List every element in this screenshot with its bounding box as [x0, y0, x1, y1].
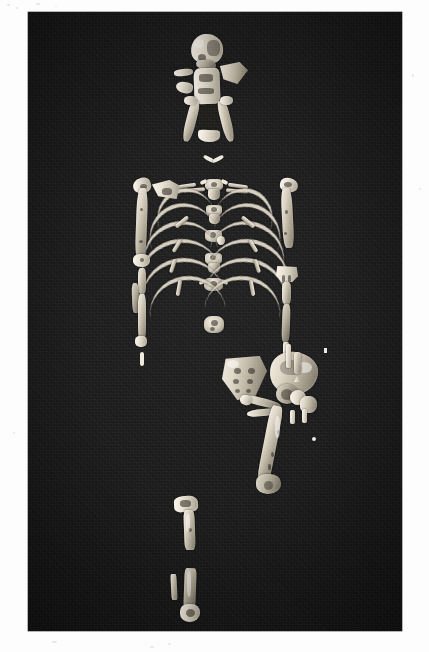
- tiny-fragment: [324, 348, 327, 353]
- mandible-symphysis: [198, 130, 220, 143]
- mandible-condyle-right: [220, 96, 233, 105]
- tibia-highlight: [186, 514, 190, 532]
- sacral-foramen: [233, 379, 239, 384]
- distal-radius-left: [135, 336, 147, 347]
- bone-pit: [140, 208, 143, 211]
- page-canvas: [0, 0, 429, 652]
- sacral-foramen: [235, 389, 240, 393]
- mandible-condyle-left: [184, 96, 197, 105]
- paper-speck: [36, 3, 40, 5]
- temporal-fragment: [220, 62, 248, 84]
- paper-speck: [168, 643, 171, 645]
- trochlear-notch: [288, 275, 291, 282]
- tibia-highlight: [187, 571, 191, 597]
- paper-speck: [7, 4, 10, 6]
- skeleton-photograph: [28, 12, 402, 631]
- radius-left: [138, 268, 146, 294]
- fibula-fragment: [170, 574, 177, 600]
- epiphysis-shadow: [186, 609, 195, 617]
- sacral-foramen: [247, 379, 253, 384]
- bone-pit: [285, 210, 288, 214]
- radius-shaft-right: [281, 304, 290, 342]
- sacral-foramen: [246, 389, 251, 393]
- paper-speck: [412, 74, 414, 77]
- paper-speck: [52, 641, 57, 643]
- zygomatic-fragment-left-lower: [175, 81, 194, 95]
- metacarpal-fragment-left: [140, 352, 144, 366]
- clavicle-right: [212, 154, 224, 163]
- tibial-plateau-shadow: [180, 500, 191, 507]
- bone-crack: [268, 464, 271, 470]
- bone-pit: [139, 240, 143, 243]
- metacarpal-fragment: [294, 352, 301, 374]
- femur-shaft: [256, 405, 284, 484]
- femur-highlight: [275, 416, 280, 438]
- bone-pit: [284, 232, 287, 235]
- paper-speck: [55, 6, 57, 7]
- trochlear-notch: [282, 275, 285, 282]
- cranium-highlight: [194, 39, 204, 48]
- maxilla-shadow: [198, 88, 214, 94]
- ulna-shaft-right: [282, 282, 291, 304]
- phalanx-fragment: [290, 410, 295, 424]
- paper-speck: [419, 188, 421, 190]
- sacral-foramen: [248, 368, 255, 374]
- humerus-right: [280, 188, 294, 248]
- zygomatic-fragment-left: [174, 68, 194, 77]
- phalanx-fragment: [302, 409, 307, 423]
- paper-speck: [150, 646, 154, 648]
- cranium-shadow: [207, 40, 220, 56]
- olecranon-fossa: [140, 258, 144, 262]
- sacrum-highlight: [227, 360, 239, 368]
- bone-pit: [271, 452, 274, 457]
- forearm-shaft-left: [138, 294, 146, 340]
- paper-speck: [13, 432, 15, 434]
- sacral-foramen: [234, 368, 241, 374]
- glenoid-shadow: [162, 188, 172, 195]
- maxilla-shadow: [199, 74, 213, 82]
- humerus-head-shadow: [284, 182, 292, 187]
- vertebral-foramen: [211, 182, 217, 187]
- vertebra-body: [208, 189, 220, 200]
- intercondylar-notch: [264, 481, 273, 490]
- sesamoid-fragment: [312, 437, 316, 441]
- mandible-shadow: [199, 106, 218, 128]
- metacarpal-fragment: [286, 344, 291, 368]
- paper-speck: [16, 7, 18, 9]
